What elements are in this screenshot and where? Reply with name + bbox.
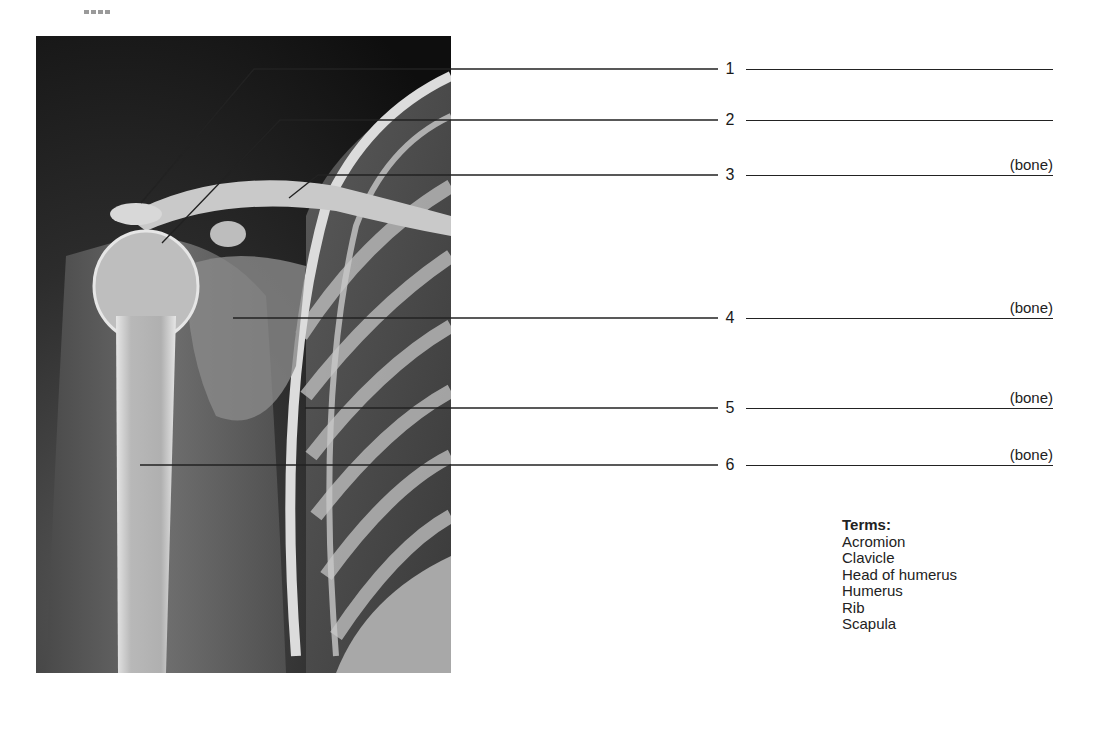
label-number: 1 [718,61,742,77]
label-number: 6 [718,457,742,473]
terms-list: Terms: Acromion Clavicle Head of humerus… [842,517,957,633]
shoulder-xray-image [36,36,451,673]
label-hint: (bone) [1010,157,1053,173]
term-item: Acromion [842,534,957,551]
label-number: 3 [718,167,742,183]
label-hint: (bone) [1010,390,1053,406]
answer-line[interactable] [746,69,1053,70]
answer-line[interactable] [746,120,1053,121]
answer-line[interactable] [746,408,1053,409]
term-item: Scapula [842,616,957,633]
label-number: 4 [718,310,742,326]
label-number: 5 [718,400,742,416]
term-item: Head of humerus [842,567,957,584]
scan-artifact [84,0,114,6]
label-number: 2 [718,112,742,128]
label-hint: (bone) [1010,447,1053,463]
label-hint: (bone) [1010,300,1053,316]
terms-title: Terms: [842,517,957,534]
answer-line[interactable] [746,318,1053,319]
term-item: Rib [842,600,957,617]
answer-line[interactable] [746,175,1053,176]
answer-line[interactable] [746,465,1053,466]
term-item: Clavicle [842,550,957,567]
term-item: Humerus [842,583,957,600]
